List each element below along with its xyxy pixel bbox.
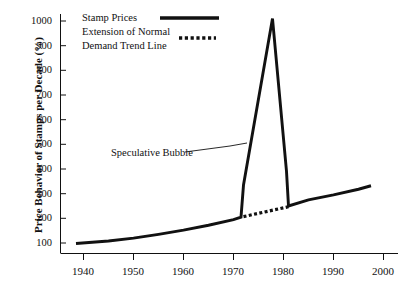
annotation-leader-line xyxy=(185,143,247,152)
stamp-price-chart-figure: Price Behavior of Stamps per Decade (%) … xyxy=(0,0,413,291)
y-axis-ticks xyxy=(61,21,67,243)
plot-area xyxy=(0,0,413,291)
series-line-demand-trend xyxy=(244,207,289,217)
series-line-stamp-prices xyxy=(76,19,371,244)
x-axis-ticks xyxy=(84,254,384,261)
